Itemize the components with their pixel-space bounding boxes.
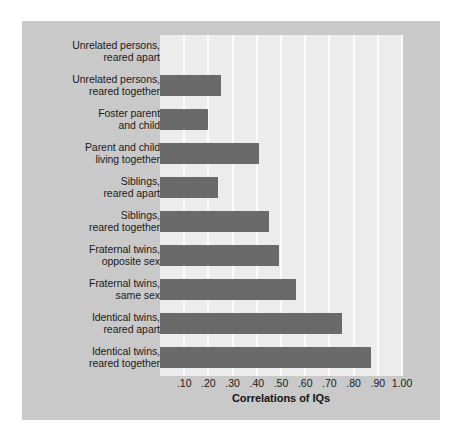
bar-row	[160, 69, 402, 103]
category-label: Siblings, reared together	[22, 209, 160, 234]
bar	[160, 177, 218, 198]
category-label: Identical twins, reared apart	[22, 311, 160, 336]
category-label: Fraternal twins, opposite sex	[22, 243, 160, 268]
bar-row	[160, 239, 402, 273]
x-tick-label: 1.00	[392, 377, 412, 390]
x-tick-label: .40	[249, 377, 264, 390]
bar-row	[160, 273, 402, 307]
category-label: Fraternal twins, same sex	[22, 277, 160, 302]
bar-row	[160, 205, 402, 239]
x-tick-label: .50	[274, 377, 289, 390]
bar-row	[160, 341, 402, 375]
x-tick-label: .30	[225, 377, 240, 390]
category-label: Identical twins, reared together	[22, 345, 160, 370]
x-tick-label: .80	[346, 377, 361, 390]
bar	[160, 347, 371, 368]
x-tick-label: .60	[298, 377, 313, 390]
category-label-column: Unrelated persons, reared apartUnrelated…	[22, 35, 160, 375]
bar	[160, 75, 221, 96]
bar	[160, 313, 342, 334]
bar-row	[160, 171, 402, 205]
bar	[160, 109, 208, 130]
x-tick-label: .20	[201, 377, 216, 390]
category-label: Parent and child living together	[22, 141, 160, 166]
iq-correlation-bar-chart: Unrelated persons, reared apartUnrelated…	[0, 0, 465, 438]
category-label: Foster parent and child	[22, 107, 160, 132]
bar-row	[160, 307, 402, 341]
x-axis-title: Correlations of IQs	[160, 392, 402, 404]
bar	[160, 211, 269, 232]
bar-row	[160, 137, 402, 171]
category-label: Siblings, reared apart	[22, 175, 160, 200]
category-label: Unrelated persons, reared apart	[22, 39, 160, 64]
bar	[160, 279, 296, 300]
bar	[160, 245, 279, 266]
x-tick-label: .70	[322, 377, 337, 390]
bar	[160, 143, 259, 164]
bar-row	[160, 35, 402, 69]
x-axis-tick-labels: .10.20.30.40.50.60.70.80.901.00	[160, 377, 410, 392]
chart-panel: Unrelated persons, reared apartUnrelated…	[22, 21, 440, 420]
plot-area	[160, 35, 402, 376]
category-label: Unrelated persons, reared together	[22, 73, 160, 98]
x-tick-label: .90	[370, 377, 385, 390]
x-tick-label: .10	[177, 377, 192, 390]
bar-row	[160, 103, 402, 137]
